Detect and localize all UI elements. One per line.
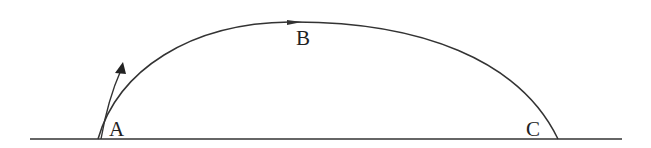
label-a: A xyxy=(109,117,125,141)
label-b: B xyxy=(296,26,310,50)
trajectory-arc xyxy=(98,22,558,139)
label-c: C xyxy=(526,117,540,141)
projectile-diagram: A B C xyxy=(0,0,651,148)
velocity-arrowhead-icon xyxy=(115,62,126,74)
